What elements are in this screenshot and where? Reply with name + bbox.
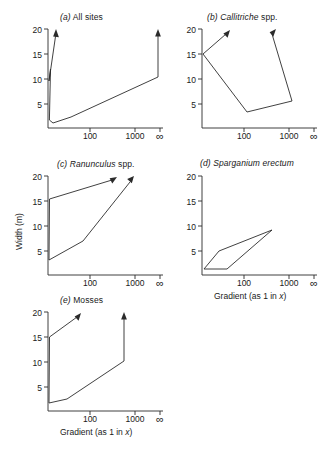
panel-e-arrow-right-head — [121, 312, 127, 320]
figure-root: (a) All sites 20 15 10 5 100 1000 ∞ — [0, 0, 325, 453]
panel-e-arrow-left-head — [75, 313, 81, 321]
panel-e-arrow-left-shaft — [50, 317, 78, 337]
panel-e-plot — [0, 0, 325, 453]
panel-e-envelope — [49, 317, 124, 403]
panel-e-axis-lines — [48, 312, 163, 411]
